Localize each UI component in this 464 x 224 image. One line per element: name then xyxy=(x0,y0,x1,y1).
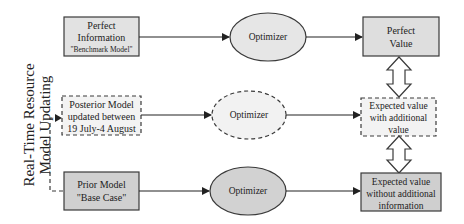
side-label: Real-Time Resource Model Updating xyxy=(21,63,53,187)
expected-value-without-line2: without additional xyxy=(366,189,436,199)
perfect-value-line1: Perfect xyxy=(387,25,416,36)
row-perfect-information: Perfect Information "Benchmark Model" Op… xyxy=(64,13,439,61)
perfect-information-line1: Perfect xyxy=(87,20,116,31)
perfect-information-line2: Information xyxy=(78,32,126,43)
expected-value-without-line3: information xyxy=(379,201,424,211)
expected-value-with-line1: Expected value xyxy=(369,101,427,111)
perfect-value-line2: Value xyxy=(390,38,413,49)
row-prior-model: Prior Model "Base Case" Optimizer Expect… xyxy=(64,167,441,215)
double-arrow-top-icon xyxy=(387,57,411,97)
expected-value-with-line2: with additional xyxy=(370,113,428,123)
perfect-value-box xyxy=(363,17,439,56)
posterior-model-line3: 19 July-4 August xyxy=(67,123,136,134)
prior-model-box xyxy=(64,172,139,210)
double-arrow-bottom-icon xyxy=(387,136,411,173)
expected-value-with-line3: value xyxy=(388,125,409,135)
posterior-model-line2: updated between xyxy=(68,111,135,122)
optimizer-3-label: Optimizer xyxy=(229,186,268,196)
expected-value-without-line1: Expected value xyxy=(372,177,430,187)
side-label-line1: Real-Time Resource xyxy=(21,63,37,187)
prior-model-line1: Prior Model xyxy=(77,179,126,190)
row-posterior-model: Posterior Model updated between 19 July-… xyxy=(62,91,436,139)
posterior-model-line1: Posterior Model xyxy=(69,99,134,110)
optimizer-2-label: Optimizer xyxy=(230,110,269,120)
perfect-information-line3: "Benchmark Model" xyxy=(70,45,132,54)
diagram-canvas: Real-Time Resource Model Updating Perfec… xyxy=(0,0,464,224)
model-updating-arrowhead xyxy=(55,114,62,122)
prior-model-line2: "Base Case" xyxy=(77,192,127,203)
optimizer-1-label: Optimizer xyxy=(249,32,288,42)
